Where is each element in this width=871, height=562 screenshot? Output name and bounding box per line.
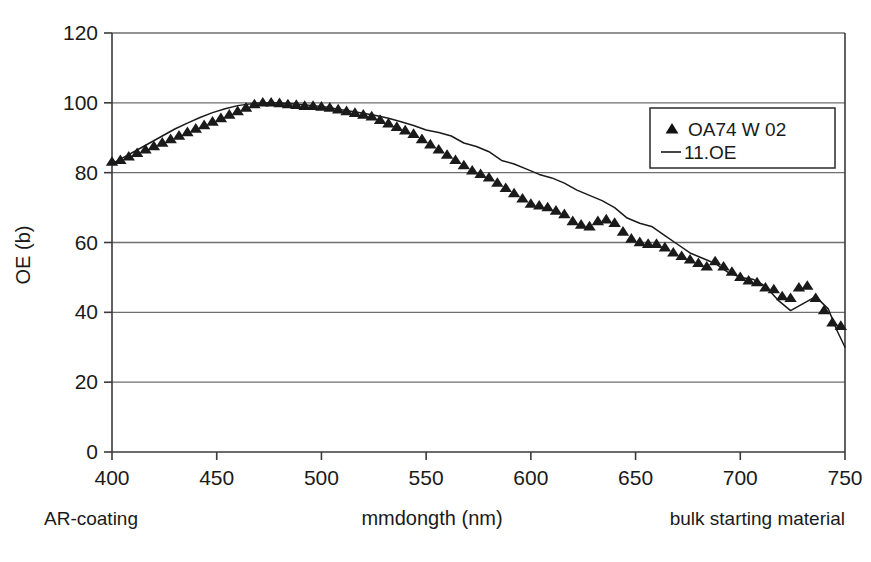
x-tick-label: 750 [827, 466, 862, 489]
y-tick-label: 80 [75, 161, 98, 184]
annotation-ar-coating: AR-coating [44, 508, 138, 529]
annotation-bulk-material: bulk starting material [670, 508, 845, 529]
y-axis-title: OE (b) [12, 226, 34, 285]
chart-legend: OA74 W 02 11.OE [650, 108, 835, 168]
y-tick-label: 120 [63, 21, 98, 44]
legend-label-1: 11.OE [684, 142, 736, 163]
chart-figure: 020406080100120 400450500550600650700750… [0, 0, 871, 562]
y-tick-label: 20 [75, 370, 98, 393]
x-tick-label: 600 [513, 466, 548, 489]
x-tick-label: 700 [723, 466, 758, 489]
chart-canvas: 020406080100120 400450500550600650700750… [0, 0, 871, 562]
x-tick-label: 400 [94, 466, 129, 489]
x-axis-title: mmdongth (nm) [361, 507, 502, 529]
x-tick-label: 500 [304, 466, 339, 489]
x-tick-label: 450 [199, 466, 234, 489]
x-tick-label: 550 [409, 466, 444, 489]
x-tick-label: 650 [618, 466, 653, 489]
y-tick-label: 40 [75, 300, 98, 323]
legend-label-0: OA74 W 02 [688, 119, 786, 140]
y-tick-label: 100 [63, 91, 98, 114]
y-tick-label: 60 [75, 231, 98, 254]
y-tick-label: 0 [86, 440, 98, 463]
